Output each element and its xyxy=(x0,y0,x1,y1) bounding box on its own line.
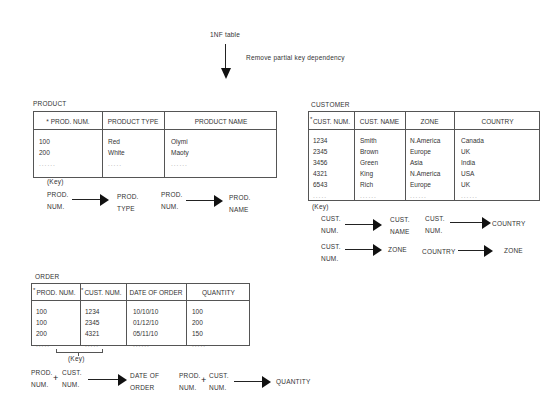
column-header-cust-name: CUST. NAME xyxy=(354,118,405,125)
table-row: Smith Brown Green King Rich ...... xyxy=(360,135,378,201)
table-row: Olymi Maoty ...... xyxy=(171,136,189,169)
right-arrow-icon xyxy=(88,374,126,386)
column-header-product-name: PRODUCT NAME xyxy=(164,118,278,125)
column-header-prod-num: * PROD. NUM. xyxy=(34,118,102,125)
table-row: 1234 2345 3456 4321 6543 ..... xyxy=(313,135,327,201)
right-arrow-icon xyxy=(345,244,381,256)
column-divider xyxy=(405,112,406,200)
right-arrow-icon xyxy=(234,376,270,388)
dependency-source: CUST. NUM. xyxy=(62,367,82,391)
plus-sign: + xyxy=(201,375,206,385)
dependency-source: PROD. NUM. xyxy=(179,370,201,394)
table-row: Canada UK India USA UK ...... xyxy=(461,135,484,201)
header-divider xyxy=(34,129,276,130)
dependency-source: CUST. NUM. xyxy=(209,370,229,394)
dependency-source: CUST. NUM. xyxy=(321,241,341,265)
key-label: (Key) xyxy=(312,203,329,210)
dependency-target: DATE OF ORDER xyxy=(130,370,159,394)
dependency-source: PROD. NUM. xyxy=(47,189,69,213)
order-table-label: ORDER xyxy=(35,273,59,280)
column-header-quantity: QUANTITY xyxy=(186,289,251,296)
dependency-source: COUNTRY xyxy=(422,248,455,255)
column-header-date-of-order: DATE OF ORDER xyxy=(126,289,186,296)
primary-key-marker: * xyxy=(81,287,83,293)
order-table: * PROD. NUM. * CUST. NUM. DATE OF ORDER … xyxy=(31,283,250,346)
table-row: 100 200 150 ..... xyxy=(192,306,206,350)
down-arrow-icon xyxy=(221,68,231,79)
header-divider xyxy=(309,129,539,130)
plus-sign: + xyxy=(53,373,58,383)
column-header-cust-num: * CUST. NUM. xyxy=(309,118,354,125)
dependency-target: PROD. NAME xyxy=(229,192,251,216)
transform-label: Remove partial key dependency xyxy=(246,54,345,61)
column-divider xyxy=(454,112,455,200)
table-row: N.America Europe Asia N.America Europe .… xyxy=(410,135,440,201)
column-header-cust-num: * CUST. NUM. xyxy=(80,289,126,296)
customer-table: * CUST. NUM. CUST. NAME ZONE COUNTRY 123… xyxy=(308,111,540,201)
dependency-target: CUST. NAME xyxy=(390,214,410,238)
dependency-target: COUNTRY xyxy=(492,220,525,227)
composite-key-bracket xyxy=(56,349,103,353)
transform-arrow-shaft xyxy=(225,44,226,70)
right-arrow-icon xyxy=(450,217,490,229)
key-label: (Key) xyxy=(47,178,64,185)
dependency-target: QUANTITY xyxy=(276,378,310,385)
dependency-target: PROD. TYPE xyxy=(117,191,139,215)
table-row: 1234 2345 4321 ..... xyxy=(85,306,99,350)
dependency-source: CUST. NUM. xyxy=(321,213,341,237)
primary-key-marker: * xyxy=(33,287,35,293)
product-table-label: PRODUCT xyxy=(33,100,67,107)
column-header-zone: ZONE xyxy=(405,118,454,125)
customer-table-label: CUSTOMER xyxy=(311,101,350,108)
table-row: 100 200 ...... xyxy=(39,136,56,169)
right-arrow-icon xyxy=(458,245,492,257)
table-row: Red White ..... xyxy=(108,136,125,169)
dependency-source: CUST. NUM. xyxy=(425,213,445,237)
primary-key-marker: * xyxy=(310,116,312,122)
dependency-source: PROD. NUM. xyxy=(161,189,183,213)
key-label: (Key) xyxy=(68,355,85,362)
column-header-country: COUNTRY xyxy=(454,118,541,125)
column-header-product-type: PRODUCT TYPE xyxy=(102,118,164,125)
right-arrow-icon xyxy=(72,194,108,206)
table-row: 10/10/10 01/12/10 05/11/10 ...... xyxy=(133,306,158,350)
right-arrow-icon xyxy=(186,195,222,207)
header-divider xyxy=(32,300,249,301)
right-arrow-icon xyxy=(345,219,381,231)
dependency-target: ZONE xyxy=(388,246,407,253)
primary-key-marker: * xyxy=(46,118,49,125)
table-row: 100 100 200 ..... xyxy=(36,306,50,350)
dependency-target: ZONE xyxy=(504,247,523,254)
column-divider xyxy=(354,112,355,200)
column-header-prod-num: * PROD. NUM. xyxy=(32,289,80,296)
dependency-source: PROD. NUM. xyxy=(31,367,53,391)
product-table: * PROD. NUM. PRODUCT TYPE PRODUCT NAME 1… xyxy=(33,111,277,178)
source-table-title: 1NF table xyxy=(210,31,240,38)
